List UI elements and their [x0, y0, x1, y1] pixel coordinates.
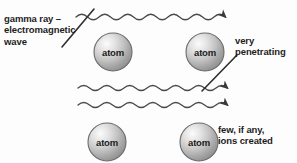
atom-sphere-bottom-right: atom: [180, 123, 218, 161]
ions-created-label: few, if any, ions created: [218, 124, 297, 147]
atom-label: atom: [188, 137, 210, 148]
top-wave: [76, 14, 226, 20]
atom-sphere-top-right: atom: [186, 33, 224, 71]
atom-label: atom: [96, 137, 118, 148]
bottom-wave: [78, 103, 228, 108]
gamma-ray-diagram: atom atom atom atom gamma ray – electrom…: [0, 0, 297, 163]
atom-label: atom: [194, 47, 216, 58]
atom-label: atom: [102, 47, 124, 58]
atom-sphere-bottom-left: atom: [88, 123, 126, 161]
very-penetrating-label: very penetrating: [235, 35, 297, 58]
atom-sphere-top-left: atom: [94, 33, 132, 71]
gamma-ray-label: gamma ray – electromagnetic wave: [4, 13, 80, 47]
